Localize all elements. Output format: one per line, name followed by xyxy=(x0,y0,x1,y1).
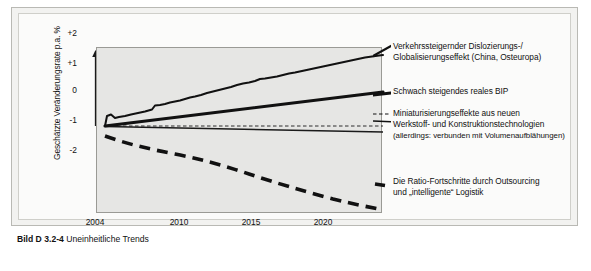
y-tick-label-1: +1 xyxy=(55,58,77,68)
x-tick-label-2015: 2015 xyxy=(231,217,271,227)
annotation-outsourcing-line-1: Die Ratio-Fortschritte durch Outsourcing xyxy=(393,176,539,187)
annotation-miniaturisation-sub: (allerdings: verbunden mit Volumenaufblä… xyxy=(393,130,565,141)
plot-area xyxy=(96,47,382,213)
figure-panel: Geschätzte Veränderungsrate p.a. % +2 +1… xyxy=(11,7,578,226)
figure-caption-label: Bild D 3.2-4 xyxy=(17,234,64,244)
series-globalisation-line xyxy=(105,55,383,126)
series-miniaturisation-line xyxy=(105,127,383,133)
annotation-globalisation-line-1: Verkehrssteigernder Dislozierungs-/ xyxy=(393,41,541,52)
annotation-marker-globalisation-icon xyxy=(373,44,391,58)
x-tick-label-2004: 2004 xyxy=(75,217,115,227)
annotation-miniaturisation: Miniaturisierungseffekte aus neuen Werks… xyxy=(393,108,565,142)
y-tick-label-minus-1: -1 xyxy=(55,115,77,125)
annotation-globalisation-line-2: Globalisierungseffekt (China, Osteuropa) xyxy=(393,52,541,63)
annotation-outsourcing-line-2: und „intelligente“ Logistik xyxy=(393,187,539,198)
annotation-marker-outsourcing-icon xyxy=(373,179,391,189)
annotation-globalisation: Verkehrssteigernder Dislozierungs-/ Glob… xyxy=(393,41,541,63)
annotation-outsourcing: Die Ratio-Fortschritte durch Outsourcing… xyxy=(393,176,539,198)
annotation-marker-miniaturisation-icon xyxy=(373,110,391,126)
annotation-miniaturisation-line-2: Werkstoff- und Konstruktionstechnologien xyxy=(393,119,565,130)
series-gdp-line xyxy=(105,92,383,126)
x-tick-label-2010: 2010 xyxy=(159,217,199,227)
plot-series-svg xyxy=(97,48,383,214)
y-tick-label-minus-2: -2 xyxy=(55,145,77,155)
figure-caption: Bild D 3.2-4 Uneinheitliche Trends xyxy=(17,234,149,244)
annotation-miniaturisation-line-1: Miniaturisierungseffekte aus neuen xyxy=(393,108,565,119)
series-outsourcing-line xyxy=(105,136,383,210)
annotation-gdp: Schwach steigendes reales BIP xyxy=(393,86,508,97)
figure-panel-inner: Geschätzte Veränderungsrate p.a. % +2 +1… xyxy=(18,13,571,220)
y-tick-label-0: 0 xyxy=(55,85,77,95)
x-tick-label-2020: 2020 xyxy=(303,217,343,227)
annotation-marker-gdp-icon xyxy=(373,89,391,99)
figure-root: Geschätzte Veränderungsrate p.a. % +2 +1… xyxy=(0,0,591,271)
y-tick-label-2: +2 xyxy=(55,28,77,38)
figure-caption-text: Uneinheitliche Trends xyxy=(66,234,149,244)
annotation-gdp-line-1: Schwach steigendes reales BIP xyxy=(393,86,508,97)
